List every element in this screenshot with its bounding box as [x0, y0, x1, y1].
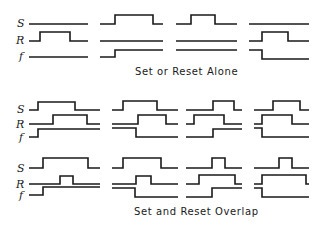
group-3-labels: S R f: [15, 162, 25, 202]
waveform-s: [112, 158, 178, 168]
timing-diagram: S R f S R f S R f: [0, 0, 324, 229]
waveform-r: [186, 115, 242, 124]
signal-label-s: S: [17, 17, 25, 30]
waveform-f: [186, 129, 242, 137]
waveform-s: [112, 101, 178, 110]
waveform-r: [29, 32, 88, 41]
waveform-f: [186, 188, 242, 197]
waveform-f: [100, 50, 163, 57]
waveform-s: [176, 15, 237, 24]
waveform-s: [100, 15, 163, 24]
waveform-r: [254, 115, 309, 124]
waveform-r: [29, 115, 100, 124]
waveform-s: [254, 101, 309, 110]
waveform-r: [249, 32, 309, 41]
signal-label-s: S: [17, 103, 25, 116]
waveform-r: [29, 176, 100, 184]
signal-label-r: R: [15, 118, 24, 131]
group-3-waveforms: [29, 158, 309, 197]
group-2-labels: S R f: [15, 103, 25, 144]
waveform-s: [29, 158, 100, 168]
waveform-f: [112, 128, 178, 137]
signal-label-f: f: [18, 50, 25, 63]
waveform-f: [112, 188, 178, 197]
signal-label-s: S: [17, 162, 25, 175]
waveform-r: [112, 115, 178, 124]
waveform-f: [249, 50, 309, 59]
waveform-r: [254, 175, 309, 184]
caption-set-and-reset-overlap: Set and Reset Overlap: [134, 206, 259, 217]
group-2-waveforms: [29, 101, 309, 137]
waveform-s: [254, 158, 309, 168]
waveform-f: [254, 188, 309, 197]
group-1-labels: S R f: [15, 17, 25, 63]
signal-label-f: f: [18, 131, 25, 144]
waveform-f: [254, 128, 309, 137]
waveform-f: [29, 129, 100, 137]
waveform-f: [29, 187, 100, 195]
signal-label-r: R: [15, 34, 24, 47]
waveform-r: [186, 175, 242, 184]
waveform-s: [29, 102, 100, 110]
group-1-waveforms: [29, 15, 309, 59]
waveform-s: [186, 101, 242, 110]
caption-set-or-reset-alone: Set or Reset Alone: [135, 66, 238, 77]
waveform-s: [186, 158, 242, 168]
waveform-r: [112, 176, 178, 184]
